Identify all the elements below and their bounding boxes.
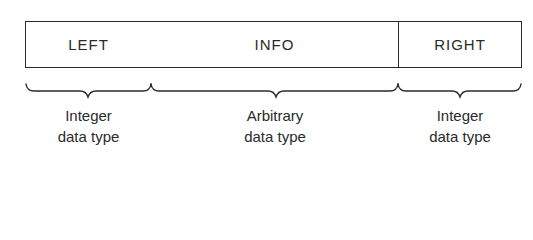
- annotation-right-line2: data type: [398, 126, 522, 147]
- annotation-info-line2: data type: [151, 126, 399, 147]
- brace-info-icon: [151, 84, 398, 97]
- annotation-info-line1: Arbitrary: [151, 105, 399, 126]
- annotation-left: Integer data type: [25, 105, 152, 147]
- annotation-right: Integer data type: [398, 105, 522, 147]
- brace-right-icon: [398, 84, 521, 97]
- annotation-info: Arbitrary data type: [151, 105, 399, 147]
- annotation-right-line1: Integer: [398, 105, 522, 126]
- annotation-left-line2: data type: [25, 126, 152, 147]
- brace-left-icon: [26, 84, 151, 97]
- annotation-left-line1: Integer: [25, 105, 152, 126]
